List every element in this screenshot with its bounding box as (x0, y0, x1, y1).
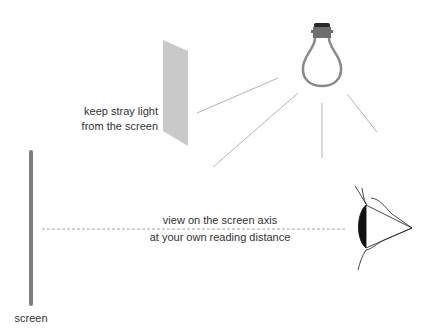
screen-label: screen (1, 311, 61, 325)
view-note-line1: view on the screen axis (120, 213, 320, 227)
diagram-canvas (0, 0, 429, 333)
shade-note-line2: from the screen (82, 119, 158, 133)
ray-icon (213, 93, 298, 167)
view-note-line2: at your own reading distance (120, 230, 320, 244)
light-rays (197, 78, 377, 167)
ray-icon (347, 94, 377, 132)
light-bulb-icon (303, 23, 341, 86)
eye-icon (355, 186, 412, 270)
ray-icon (197, 78, 278, 113)
shade-note-line1: keep stray light (84, 104, 158, 118)
shade-panel-icon (163, 40, 188, 146)
